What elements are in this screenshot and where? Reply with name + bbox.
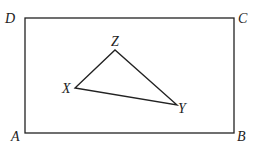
label-y: Y: [178, 101, 188, 116]
label-b: B: [237, 129, 246, 144]
triangle-xyz: [75, 50, 177, 105]
geometry-diagram: D C A B Z X Y: [0, 0, 261, 150]
label-x: X: [61, 81, 71, 96]
label-a: A: [10, 129, 20, 144]
label-z: Z: [111, 34, 119, 49]
label-c: C: [238, 11, 248, 26]
rectangle-abcd: [25, 18, 234, 133]
label-d: D: [4, 11, 15, 26]
diagram-canvas: D C A B Z X Y: [0, 0, 261, 150]
